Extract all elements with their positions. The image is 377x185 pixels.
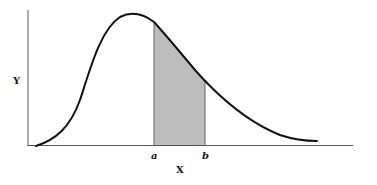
- x-axis-label: X: [176, 164, 184, 175]
- y-axis-label: Y: [12, 75, 21, 86]
- label-a: a: [151, 150, 157, 161]
- label-b: b: [202, 150, 209, 161]
- shaded-area: [154, 22, 205, 145]
- density-diagram: Y a b X: [0, 0, 377, 185]
